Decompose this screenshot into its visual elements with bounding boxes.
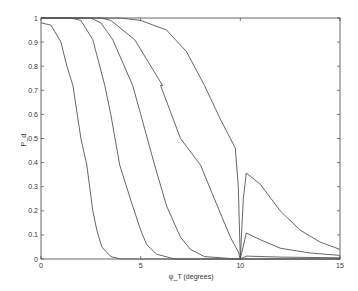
x-axis-ticks: 051015 [39,18,344,269]
series-line-curve-5 [41,18,340,259]
plot-area-border [41,18,340,259]
y-tick-label: 0.6 [28,111,38,118]
x-tick-label: 5 [139,262,143,269]
series-line-curve-2 [41,18,340,259]
chart: 051015 00.10.20.30.40.50.60.70.80.91 ψ_T… [0,0,358,291]
x-tick-label: 10 [236,262,244,269]
y-tick-label: 0.8 [28,63,38,70]
y-tick-label: 0.4 [28,159,38,166]
y-tick-label: 0.3 [28,183,38,190]
series-line-curve-4 [41,18,340,259]
y-axis-ticks: 00.10.20.30.40.50.60.70.80.91 [28,15,340,263]
plot-frame [41,18,340,259]
y-tick-label: 0.7 [28,87,38,94]
x-tick-label: 0 [39,262,43,269]
y-tick-label: 0.9 [28,39,38,46]
y-tick-label: 0 [34,256,38,263]
series-lines [41,18,340,259]
x-tick-label: 15 [336,262,344,269]
series-line-curve-3 [41,18,340,259]
y-axis-label: P_d [20,134,28,147]
y-tick-label: 0.5 [28,135,38,142]
x-axis-label: ψ_T (degrees) [169,273,214,281]
y-tick-label: 0.1 [28,231,38,238]
y-tick-label: 1 [34,15,38,22]
y-tick-label: 0.2 [28,207,38,214]
series-line-curve-1 [41,23,340,259]
